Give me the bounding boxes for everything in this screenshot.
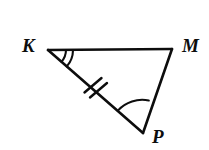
angle-mark-P <box>118 100 149 111</box>
triangle-diagram-canvas <box>0 0 209 150</box>
tick-marks-KP <box>85 78 108 98</box>
vertex-label-M: M <box>182 36 199 55</box>
vertex-label-P: P <box>152 127 164 146</box>
geometry-figure: K M P <box>0 0 209 150</box>
side-MP <box>143 49 172 133</box>
vertex-label-K: K <box>22 36 35 55</box>
angle-arc-P <box>118 100 149 111</box>
triangle-sides <box>48 49 172 133</box>
angle-arc-K-inner <box>62 50 67 62</box>
angle-arc-K-outer <box>67 50 73 66</box>
